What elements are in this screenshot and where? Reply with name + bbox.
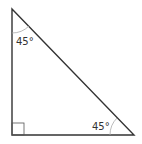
triangle	[12, 9, 134, 135]
top-angle-arc	[12, 26, 29, 33]
triangle-diagram: 45° 45°	[0, 0, 142, 144]
top-angle-label: 45°	[16, 36, 34, 47]
bottom-right-angle-arc	[110, 118, 117, 135]
right-angle-marker	[12, 123, 24, 135]
bottom-right-angle-label: 45°	[92, 121, 110, 132]
